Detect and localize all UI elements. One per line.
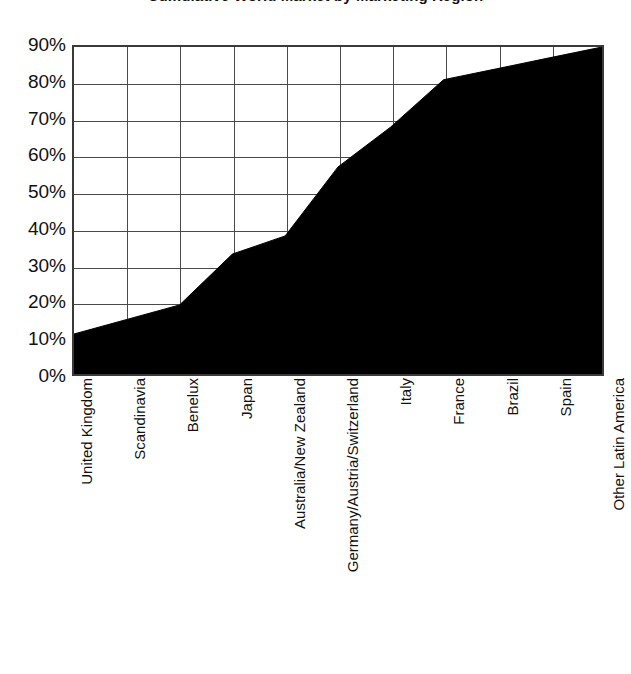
- y-axis-tick-60pct: 60%: [4, 145, 66, 164]
- x-axis-tick-spain: Spain: [557, 378, 575, 628]
- y-axis-tick-30pct: 30%: [4, 256, 66, 275]
- chart-figure: Cumulative World Market by Marketing Reg…: [0, 0, 631, 674]
- y-axis-tick-50pct: 50%: [4, 182, 66, 201]
- y-axis-tick-70pct: 70%: [4, 109, 66, 128]
- x-axis-tick-scandinavia: Scandinavia: [131, 378, 149, 628]
- x-axis-tick-germany-austria-switzerland: Germany/Austria/Switzerland: [344, 378, 362, 628]
- x-axis-tick-labels: United KingdomScandinaviaBeneluxJapanAus…: [72, 378, 604, 628]
- cumulative-area-shape: [74, 47, 602, 374]
- x-axis-tick-australia-new-zealand: Australia/New Zealand: [291, 378, 309, 628]
- y-axis-tick-80pct: 80%: [4, 72, 66, 91]
- y-axis-tick-20pct: 20%: [4, 292, 66, 311]
- x-axis-tick-benelux: Benelux: [184, 378, 202, 628]
- plot-area: [72, 45, 604, 376]
- y-axis-tick-40pct: 40%: [4, 219, 66, 238]
- x-axis-tick-brazil: Brazil: [504, 378, 522, 628]
- x-axis-tick-italy: Italy: [397, 378, 415, 628]
- chart-title: Cumulative World Market by Marketing Reg…: [0, 0, 631, 4]
- y-axis-tick-0pct: 0%: [4, 366, 66, 385]
- x-axis-tick-japan: Japan: [238, 378, 256, 628]
- y-axis-tick-labels: 0%10%20%30%40%50%60%70%80%90%: [0, 0, 66, 674]
- y-axis-tick-10pct: 10%: [4, 329, 66, 348]
- area-series-path: [74, 47, 602, 374]
- x-axis-tick-other-latin-america: Other Latin America: [610, 378, 628, 628]
- y-axis-tick-90pct: 90%: [4, 35, 66, 54]
- x-axis-tick-france: France: [450, 378, 468, 628]
- x-axis-tick-united-kingdom: United Kingdom: [78, 378, 96, 628]
